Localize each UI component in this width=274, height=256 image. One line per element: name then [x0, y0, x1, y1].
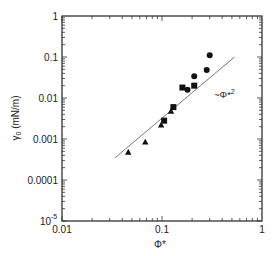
svg-text:γ0 (mN/m): γ0 (mN/m): [10, 95, 22, 140]
triangle-marker: [125, 149, 131, 155]
log-log-scatter-chart: 1 0.1 0.01 0.001 0.0001 10 -5 0.01 0.1 1…: [0, 0, 274, 256]
square-marker: [179, 85, 185, 91]
y-tick-1e-5-exponent: -5: [51, 213, 57, 220]
circle-marker: [207, 52, 213, 58]
y-tick-1e-5-base: 10: [40, 216, 52, 227]
slope-annotation: ~Φ*2: [214, 88, 235, 100]
y-axis-title: γ0 (mN/m): [10, 95, 22, 140]
slope-annotation-main: ~Φ*: [214, 89, 231, 100]
x-tick-0.01: 0.01: [52, 224, 72, 235]
square-marker: [161, 118, 167, 124]
x-axis-title: Φ*: [154, 239, 166, 250]
x-tick-0.1: 0.1: [155, 224, 169, 235]
y-axis-tick-labels: 1 0.1 0.01 0.001 0.0001 10 -5: [27, 11, 58, 227]
y-tick-0.01: 0.01: [39, 93, 59, 104]
y-tick-1: 1: [52, 11, 58, 22]
y-tick-0.1: 0.1: [44, 52, 58, 63]
circle-marker: [185, 87, 191, 93]
y-tick-0.001: 0.001: [33, 134, 58, 145]
y-tick-0.0001: 0.0001: [27, 175, 58, 186]
x-axis-tick-labels: 0.01 0.1 1: [52, 224, 265, 235]
square-marker: [170, 104, 176, 110]
slope-annotation-superscript: 2: [231, 88, 235, 95]
square-marker: [191, 83, 197, 89]
y-axis-title-unit: (mN/m): [10, 95, 21, 131]
data-markers: [125, 52, 213, 154]
triangle-marker: [142, 139, 148, 145]
circle-marker: [191, 73, 197, 79]
x-tick-1: 1: [259, 224, 265, 235]
circle-marker: [204, 67, 210, 73]
